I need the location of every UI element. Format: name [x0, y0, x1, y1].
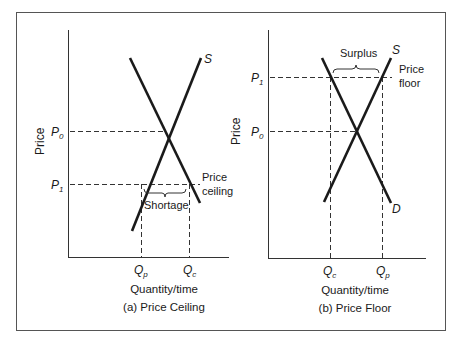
- x-axis-label: Quantity/time: [130, 283, 198, 295]
- y-axis-label: Price: [229, 117, 243, 145]
- figure-frame: [17, 13, 446, 331]
- surplus-brace: [333, 65, 379, 73]
- panel-caption: (b) Price Floor: [319, 302, 392, 314]
- demand-curve: [130, 58, 200, 203]
- panel-price-ceiling: S Price P0 P1 Price ceiling Shortage Qp …: [33, 30, 233, 313]
- demand-label: D: [392, 202, 401, 216]
- qc-label: Qc: [323, 264, 336, 280]
- price-floor-label-2: floor: [399, 77, 421, 89]
- panel-price-floor: S D Price P1 P0 Surplus Price floor Qc Q…: [229, 30, 426, 314]
- figure-canvas: S Price P0 P1 Price ceiling Shortage Qp …: [0, 0, 457, 343]
- qc-label: Qc: [183, 263, 196, 279]
- price-ceiling-label-1: Price: [202, 171, 227, 183]
- surplus-label: Surplus: [340, 47, 378, 59]
- qp-label: Qp: [376, 264, 390, 280]
- price-ceiling-label-2: ceiling: [202, 185, 233, 197]
- x-axis-label: Quantity/time: [321, 284, 389, 296]
- p1-label: P1: [51, 178, 63, 194]
- p0-label: P0: [51, 125, 64, 141]
- panel-caption: (a) Price Ceiling: [123, 301, 205, 313]
- shortage-label: Shortage: [144, 199, 189, 211]
- y-axis-label: Price: [33, 127, 47, 155]
- price-floor-label-1: Price: [399, 63, 424, 75]
- shortage-brace: [144, 189, 186, 197]
- supply-label: S: [392, 43, 400, 57]
- p1-label: P1: [251, 71, 263, 87]
- supply-label: S: [204, 52, 212, 66]
- qp-label: Qp: [134, 263, 148, 279]
- p0-label: P0: [251, 125, 264, 141]
